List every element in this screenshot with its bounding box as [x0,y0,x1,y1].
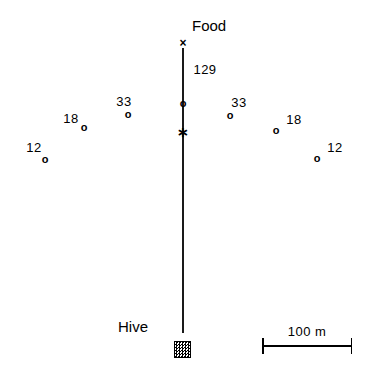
count-label-left-12: 12 [26,141,41,154]
count-label-left-33: 33 [116,95,131,108]
hive-food-axis-line [182,48,184,333]
count-label-right-12: 12 [327,141,342,154]
bee-foraging-map-figure: Food Hive × o ∗ o o o o o o 129 12 18 33… [0,0,376,377]
count-label-left-18: 18 [63,112,78,125]
scale-bar-cap-right [351,338,353,354]
scale-bar-rule [262,345,352,347]
dance-site-marker: ∗ [177,125,189,139]
scale-bar: 100 m [262,333,352,359]
scale-bar-label: 100 m [262,324,352,339]
recruit-marker-left-33: o [125,109,132,120]
count-label-right-33: 33 [231,96,246,109]
count-label-food: 129 [193,63,216,76]
food-site-marker: × [179,37,186,49]
recruit-marker-left-12: o [42,154,49,165]
scale-bar-cap-left [262,338,264,354]
food-label: Food [192,18,226,33]
recruit-marker-right-33: o [227,110,234,121]
hive-label: Hive [118,319,148,334]
recruit-marker-right-12: o [314,153,321,164]
hive-marker-box [174,341,191,358]
recruit-marker-left-18: o [81,122,88,133]
count-label-right-18: 18 [286,113,301,126]
recruit-marker-right-18: o [273,125,280,136]
center-circle-marker: o [180,98,187,109]
